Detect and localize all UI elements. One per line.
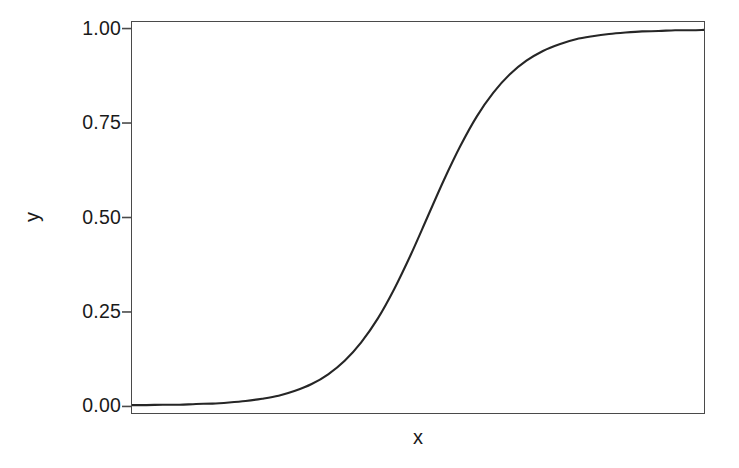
y-axis-tick-label: 0.00 — [51, 397, 121, 417]
sigmoid-curve-plot — [132, 22, 704, 413]
plot-panel — [131, 21, 705, 414]
y-axis-title: y — [22, 212, 42, 222]
y-axis-tick-label: 0.25 — [51, 302, 121, 322]
y-axis-tick-label: 0.75 — [51, 113, 121, 133]
series-line-sigmoid — [132, 30, 704, 405]
y-axis-tick-label: 0.50 — [51, 208, 121, 228]
chart-figure: 0.000.250.500.751.00 y x — [0, 0, 739, 468]
y-axis-tick-labels: 0.000.250.500.751.00 — [43, 0, 121, 468]
y-axis-tick-label: 1.00 — [51, 19, 121, 39]
x-axis-title: x — [413, 427, 423, 447]
